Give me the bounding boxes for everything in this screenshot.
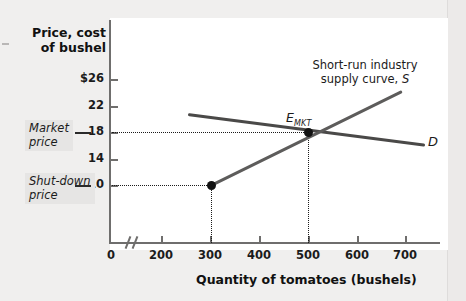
supply-curve-label: Short-run industry supply curve, S bbox=[303, 58, 427, 86]
supply-curve-symbol: S bbox=[402, 72, 409, 86]
equilibrium-label: EMKT bbox=[286, 110, 312, 128]
x-tick-label-600: 600 bbox=[334, 248, 380, 262]
market-price-note-line2: price bbox=[29, 136, 69, 150]
y-axis-title: Price, cost of bushel bbox=[24, 26, 106, 55]
y-axis-title-line2: of bushel bbox=[24, 41, 106, 56]
x-tick-label-700: 700 bbox=[382, 248, 428, 262]
y-tick-14 bbox=[111, 159, 118, 161]
guide-market-quantity-vertical bbox=[308, 132, 309, 243]
page-margin-tick bbox=[2, 43, 9, 45]
market-price-leader-line bbox=[75, 132, 91, 134]
demand-curve-label: D bbox=[428, 134, 438, 149]
x-tick-label-300: 300 bbox=[187, 248, 233, 262]
x-tick-label-200: 200 bbox=[138, 248, 184, 262]
y-tick-22 bbox=[111, 106, 118, 108]
x-tick-200 bbox=[161, 236, 163, 243]
supply-curve-label-line2: supply curve, S bbox=[303, 72, 427, 86]
x-tick-label-500: 500 bbox=[285, 248, 331, 262]
x-axis-title: Quantity of tomatoes (bushels) bbox=[196, 272, 417, 287]
equilibrium-label-symbol: E bbox=[286, 110, 294, 125]
y-tick-26 bbox=[111, 79, 118, 81]
y-tick-label-26: $26 bbox=[80, 73, 104, 84]
plot-area bbox=[110, 18, 448, 250]
shutdown-price-leader-line bbox=[75, 185, 91, 187]
shutdown-price-note-line2: price bbox=[29, 189, 91, 203]
figure-root: Price, cost of bushel $26 22 18 14 10 0 … bbox=[0, 0, 466, 301]
equilibrium-label-subscript: MKT bbox=[294, 119, 312, 128]
shutdown-price-note: Shut-down price bbox=[25, 173, 95, 204]
x-axis-line bbox=[110, 242, 440, 244]
y-tick-label-14: 14 bbox=[88, 153, 104, 164]
market-price-note: Market price bbox=[25, 120, 73, 151]
guide-shutdown-price-horizontal bbox=[112, 185, 211, 186]
guide-shutdown-quantity-vertical bbox=[211, 185, 212, 243]
market-price-note-line1: Market bbox=[29, 122, 69, 136]
page-edge-shading bbox=[448, 0, 466, 301]
supply-curve-label-line1: Short-run industry bbox=[303, 58, 427, 72]
x-tick-600 bbox=[357, 236, 359, 243]
x-tick-label-0: 0 bbox=[88, 248, 134, 262]
y-tick-label-22: 22 bbox=[88, 100, 104, 111]
x-tick-700 bbox=[405, 236, 407, 243]
x-tick-400 bbox=[259, 236, 261, 243]
guide-market-price-horizontal bbox=[112, 132, 308, 133]
x-tick-label-400: 400 bbox=[236, 248, 282, 262]
supply-curve-label-text: supply curve, bbox=[321, 72, 398, 86]
shutdown-point-marker bbox=[207, 181, 216, 190]
y-axis-title-line1: Price, cost bbox=[24, 26, 106, 41]
equilibrium-point-marker bbox=[304, 128, 313, 137]
